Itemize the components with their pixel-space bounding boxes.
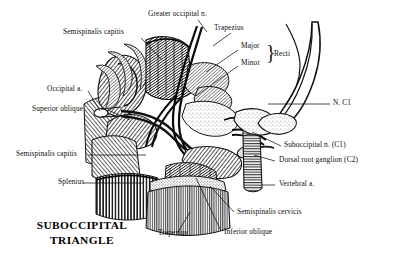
anatomical-figure-suboccipital-triangle: Greater occipital n. Semispinalis capiti…	[0, 0, 397, 266]
label-rectus-minor: Minor	[241, 59, 260, 68]
label-recti: Recti	[274, 50, 290, 59]
label-inferior-oblique: Inferior oblique	[224, 228, 272, 237]
label-greater-occipital-n: Greater occipital n.	[148, 10, 207, 19]
label-trapezius-top: Trapezius	[214, 24, 244, 33]
label-rectus-major: Major	[241, 42, 260, 51]
semispinalis-capitis-central-belly	[146, 37, 192, 100]
trapezius-muscle-cut-edge	[146, 176, 230, 236]
figure-title-line2: TRIANGLE	[24, 233, 140, 247]
label-semispinalis-capitis-left: Semispinalis capitis	[16, 150, 77, 159]
label-semispinalis-cervicis: Semispinalis cervicis	[237, 208, 302, 217]
label-splenius: Splenius	[58, 178, 84, 187]
label-superior-oblique: Superior oblique	[32, 105, 83, 114]
label-trapezius-bottom: Trapezius	[158, 229, 188, 238]
label-semispinalis-capitis-top: Semispinalis capitis	[63, 28, 124, 37]
figure-title-line1: SUBOCCIPITAL	[24, 218, 140, 232]
label-occipital-a: Occipital a.	[47, 85, 82, 94]
label-vertebral-a: Vertebral a.	[279, 180, 314, 189]
label-dorsal-root-ganglion-c2: Dorsal root ganglion (C2)	[279, 156, 358, 165]
label-n-c1: N. C1	[333, 99, 351, 108]
label-suboccipital-n-c1: Suboccipital n. (C1)	[284, 141, 346, 150]
